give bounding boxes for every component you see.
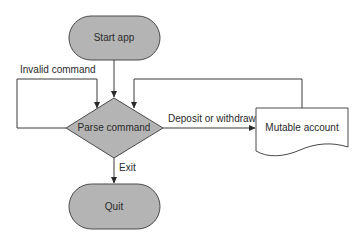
exit-label: Exit xyxy=(119,162,136,174)
parse-command-label: Parse command xyxy=(78,122,151,134)
mutable-account-label: Mutable account xyxy=(265,122,338,134)
account-to-parse-arrow xyxy=(134,79,302,108)
start-app-label: Start app xyxy=(94,32,135,44)
quit-label: Quit xyxy=(105,201,123,213)
invalid-command-label: Invalid command xyxy=(20,64,96,76)
deposit-or-withdraw-label: Deposit or withdraw xyxy=(168,113,256,125)
